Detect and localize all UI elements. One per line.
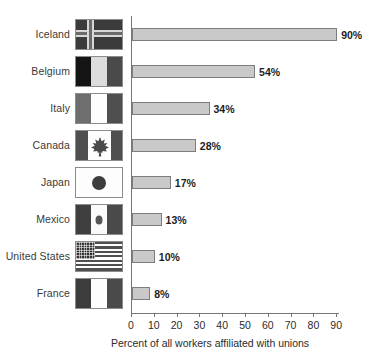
- bar-france: 8%: [132, 287, 150, 300]
- x-tick-70: 70: [285, 319, 297, 331]
- bar-value-belgium: 54%: [259, 66, 280, 78]
- canada-flag: [75, 130, 123, 161]
- japan-flag: [75, 167, 123, 198]
- maple-leaf-icon: [76, 131, 123, 161]
- bar-japan: 17%: [132, 176, 171, 189]
- category-label-japan: Japan: [0, 177, 73, 188]
- x-axis-line: 0 10 20 30 40 50 60 70 80 90: [131, 313, 339, 314]
- bar-italy: 34%: [132, 102, 210, 115]
- x-tick-10: 10: [148, 319, 160, 331]
- category-label-united-states: United States: [0, 251, 73, 262]
- category-label-italy: Italy: [0, 103, 73, 114]
- bar-canada: 28%: [132, 139, 196, 152]
- x-tick-90: 90: [330, 319, 342, 331]
- bar-belgium: 54%: [132, 65, 255, 78]
- x-axis-title-text: Percent of all workers affiliated with u…: [56, 337, 309, 349]
- bar-value-canada: 28%: [200, 140, 221, 152]
- plot-area: 90% 54% 34% 28% 17% 13% 10% 8%: [131, 16, 365, 313]
- y-axis-line: [131, 16, 132, 313]
- coat-of-arms-icon: [96, 215, 103, 224]
- category-label-iceland: Iceland: [0, 29, 73, 40]
- category-label-france: France: [0, 288, 73, 299]
- bar-value-japan: 17%: [175, 177, 196, 189]
- category-label-mexico: Mexico: [0, 214, 73, 225]
- x-tick-40: 40: [216, 319, 228, 331]
- x-tick-20: 20: [171, 319, 183, 331]
- bar-value-mexico: 13%: [166, 214, 187, 226]
- france-flag: [75, 278, 123, 309]
- canton-icon: [76, 242, 95, 259]
- x-tick-30: 30: [194, 319, 206, 331]
- x-tick-60: 60: [262, 319, 274, 331]
- category-label-belgium: Belgium: [0, 66, 73, 77]
- x-axis-title: Percent of all workers affiliated with u…: [0, 337, 365, 349]
- united-states-flag: [75, 241, 123, 272]
- bar-value-iceland: 90%: [341, 29, 362, 41]
- italy-flag: [75, 93, 123, 124]
- bar-iceland: 90%: [132, 28, 337, 41]
- bar-value-italy: 34%: [214, 103, 235, 115]
- bar-value-united-states: 10%: [159, 251, 180, 263]
- bar-united-states: 10%: [132, 250, 155, 263]
- sun-disc-icon: [92, 176, 106, 190]
- belgium-flag: [75, 56, 123, 87]
- iceland-flag: [75, 19, 123, 50]
- x-tick-0: 0: [128, 319, 134, 331]
- x-tick-50: 50: [239, 319, 251, 331]
- bar-mexico: 13%: [132, 213, 162, 226]
- category-label-canada: Canada: [0, 140, 73, 151]
- mexico-flag: [75, 204, 123, 235]
- union-membership-bar-chart: Iceland Belgium Italy: [0, 0, 365, 359]
- x-tick-80: 80: [308, 319, 320, 331]
- bar-value-france: 8%: [154, 288, 169, 300]
